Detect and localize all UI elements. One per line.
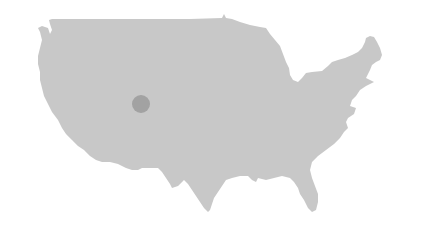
location-marker[interactable] (132, 95, 150, 113)
map-container (0, 0, 437, 236)
us-map[interactable] (0, 0, 437, 236)
markers-layer (132, 95, 150, 113)
us-landmass (38, 14, 382, 212)
